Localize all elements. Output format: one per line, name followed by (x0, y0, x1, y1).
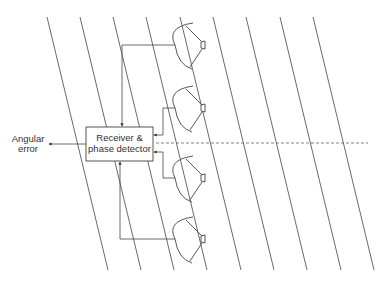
parabolic-dish-icon (173, 86, 205, 132)
wavefront-line (180, 17, 241, 270)
receiver-label-line1: Receiver & (96, 132, 143, 143)
wavefront-line (246, 17, 307, 270)
output-label-line2: error (18, 143, 38, 154)
feed-line-antenna-4 (120, 162, 175, 239)
feed-line-antenna-1 (122, 45, 175, 126)
angular-error-label: Angular error (12, 133, 45, 154)
diagram-canvas: Receiver & phase detector Angular error (0, 0, 390, 282)
wavefront-line (313, 17, 374, 270)
feed-line-antenna-2 (154, 108, 175, 135)
parabolic-dish-icon (173, 23, 205, 69)
wavefront-line (213, 17, 274, 270)
feed-line-antenna-3 (154, 152, 175, 178)
wavefront-line (280, 17, 341, 270)
receiver-label-line2: phase detector (88, 143, 151, 154)
receiver-phase-detector-block: Receiver & phase detector (86, 127, 153, 161)
